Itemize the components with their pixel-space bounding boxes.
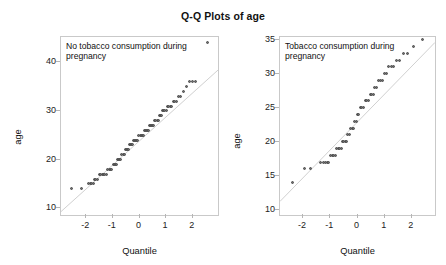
data-point <box>115 163 118 166</box>
data-point <box>381 79 384 82</box>
data-point <box>157 119 160 122</box>
y-tick-label: 25 <box>245 102 275 112</box>
left-plot-frame <box>60 36 219 216</box>
x-tick-mark <box>329 214 330 218</box>
data-point <box>291 181 294 184</box>
x-tick-mark <box>192 214 193 218</box>
y-tick-label: 10 <box>26 202 56 212</box>
data-point <box>175 100 178 103</box>
x-tick-mark <box>384 214 385 218</box>
x-tick-label: -1 <box>100 220 124 230</box>
data-point <box>147 129 150 132</box>
x-tick-label: 2 <box>180 220 204 230</box>
data-point <box>340 147 343 150</box>
right-plot-frame <box>279 36 436 216</box>
x-tick-label: 1 <box>372 220 396 230</box>
x-tick-label: -1 <box>317 220 341 230</box>
figure-title: Q-Q Plots of age <box>0 10 446 22</box>
right-x-axis-label: Quantile <box>279 246 436 256</box>
x-tick-label: 1 <box>153 220 177 230</box>
left-y-axis-label: age <box>13 117 23 157</box>
y-tick-label: 10 <box>245 204 275 214</box>
data-point <box>355 120 358 123</box>
x-tick-mark <box>411 214 412 218</box>
data-point <box>334 154 337 157</box>
right-panel-label: Tobacco consumption during pregnancy <box>285 41 435 62</box>
right-reference-line <box>280 37 435 215</box>
left-x-axis-label: Quantile <box>60 246 219 256</box>
data-point <box>352 127 355 130</box>
left-reference-line <box>61 37 218 215</box>
data-point <box>123 153 126 156</box>
x-tick-mark <box>165 214 166 218</box>
x-tick-label: -2 <box>290 220 314 230</box>
x-tick-mark <box>112 214 113 218</box>
qq-plot-figure: Q-Q Plots of age age 10203040 No tobacco… <box>0 0 446 265</box>
x-tick-mark <box>85 214 86 218</box>
x-tick-label: 0 <box>345 220 369 230</box>
y-tick-label: 15 <box>245 170 275 180</box>
x-tick-mark <box>139 214 140 218</box>
data-point <box>170 105 173 108</box>
y-tick-label: 30 <box>26 105 56 115</box>
data-point <box>142 134 145 137</box>
data-point <box>372 93 375 96</box>
data-point <box>182 90 185 93</box>
left-panel-label: No tobacco consumption during pregnancy <box>66 41 216 62</box>
data-point <box>375 86 378 89</box>
panels-container: age 10203040 No tobacco consumption duri… <box>0 28 446 260</box>
data-point <box>105 173 108 176</box>
x-tick-label: 2 <box>399 220 423 230</box>
right-y-axis-label: age <box>232 121 242 161</box>
data-point <box>185 85 188 88</box>
right-plot-area <box>280 37 435 215</box>
data-point <box>327 161 330 164</box>
x-tick-label: 0 <box>127 220 151 230</box>
x-tick-label: -2 <box>73 220 97 230</box>
y-tick-label: 30 <box>245 68 275 78</box>
y-tick-label: 40 <box>26 56 56 66</box>
panel-tobacco: age 101520253035 Tobacco consumption dur… <box>227 28 442 260</box>
y-tick-label: 20 <box>245 136 275 146</box>
left-plot-area <box>61 37 218 215</box>
x-tick-mark <box>302 214 303 218</box>
y-tick-label: 35 <box>245 34 275 44</box>
y-tick-label: 20 <box>26 154 56 164</box>
x-tick-mark <box>357 214 358 218</box>
panel-no-tobacco: age 10203040 No tobacco consumption duri… <box>4 28 223 260</box>
